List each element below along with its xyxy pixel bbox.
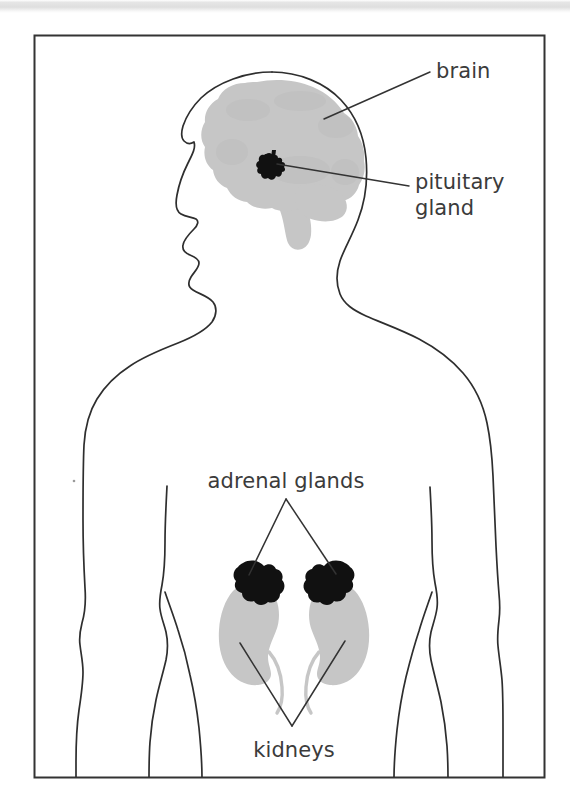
scan-speck — [73, 480, 76, 483]
label-kidneys: kidneys — [253, 738, 335, 762]
figure-root: brain pituitary gland adrenal glands kid… — [0, 0, 570, 802]
label-brain: brain — [436, 59, 490, 83]
label-pituitary-line-2: gland — [415, 196, 474, 220]
label-adrenal-glands: adrenal glands — [208, 469, 365, 493]
endocrine-diagram: brain pituitary gland adrenal glands kid… — [0, 0, 570, 802]
label-pituitary-line-1: pituitary — [415, 170, 505, 194]
